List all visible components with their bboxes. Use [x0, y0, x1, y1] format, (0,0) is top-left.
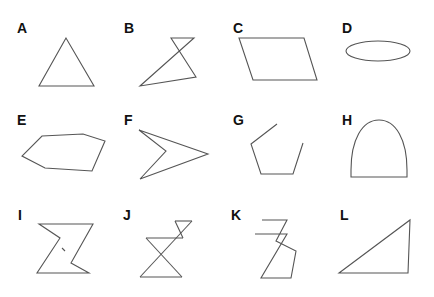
shape-k-zigzag [255, 220, 296, 278]
shape-l-right-triangle [339, 220, 410, 273]
shape-h-arch [351, 120, 407, 177]
shape-b-crossed-quad [140, 38, 196, 86]
shape-a-triangle [39, 38, 94, 86]
shape-c-parallelogram [239, 38, 317, 80]
shape-e-hexagon [22, 134, 105, 171]
shape-i-hourglass [37, 224, 93, 273]
shape-i-mark [62, 248, 65, 251]
shapes-canvas [0, 0, 434, 297]
shape-d-ellipse [346, 41, 410, 61]
shape-g-open-pentagon [251, 124, 303, 174]
shape-f-arrowhead [139, 130, 208, 179]
shape-j-bowtie [140, 221, 192, 277]
